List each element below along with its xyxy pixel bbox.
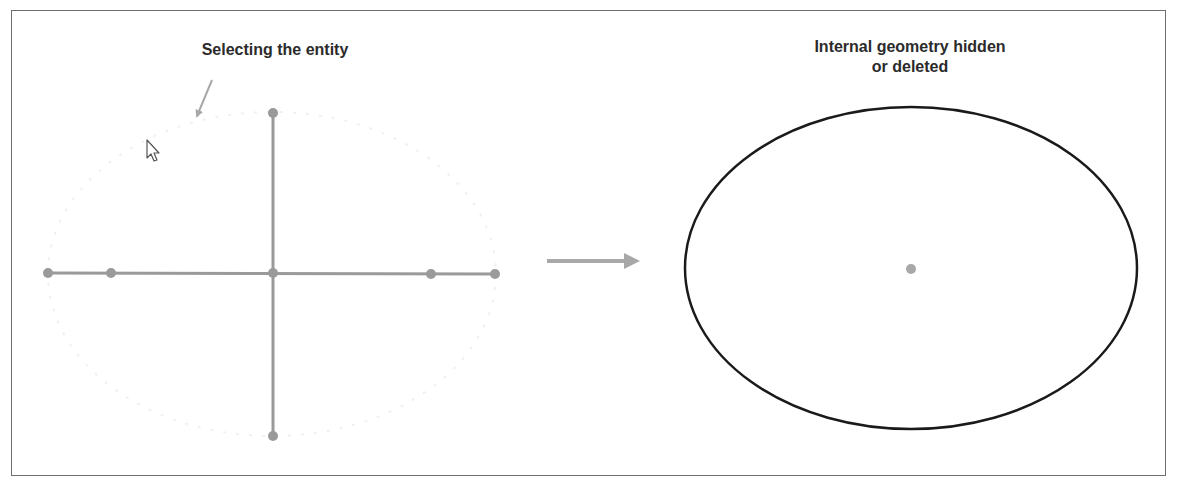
mouse-pointer-icon	[147, 140, 159, 161]
annotation-arrow-icon	[197, 80, 212, 116]
left-focus-point[interactable]	[106, 268, 116, 278]
right-vertex-point[interactable]	[490, 269, 500, 279]
top-co-vertex-point[interactable]	[268, 108, 278, 118]
result-center-point[interactable]	[906, 264, 916, 274]
diagram-canvas	[0, 0, 1178, 487]
right-focus-point[interactable]	[426, 269, 436, 279]
center-point[interactable]	[268, 268, 278, 278]
left-vertex-point[interactable]	[43, 268, 53, 278]
bottom-co-vertex-point[interactable]	[268, 431, 278, 441]
